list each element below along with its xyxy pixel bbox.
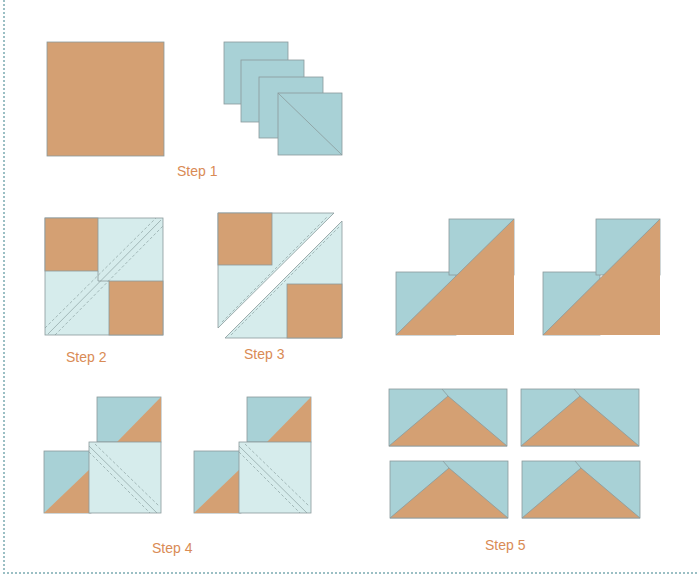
step3-result-right: [543, 219, 660, 335]
step1-tan-square: [47, 42, 164, 156]
step5-goose-4: [522, 461, 640, 518]
quilt-instructions-diagram: .tan { fill: #d4a073; } .blue { fill: #a…: [0, 0, 697, 577]
step1-label: Step 1: [177, 163, 217, 179]
step5-goose-2: [521, 389, 639, 446]
step3-label: Step 3: [244, 346, 284, 362]
step1-blue-squares-stack: [224, 42, 342, 155]
step3-result-left: [396, 219, 514, 335]
step2-label: Step 2: [66, 349, 106, 365]
step4-label: Step 4: [152, 540, 192, 556]
step5-goose-1: [389, 389, 507, 446]
step5-goose-3: [390, 461, 508, 518]
step2-block: [45, 218, 163, 335]
step3-block-cut: [218, 213, 342, 338]
step4-block-right: [194, 397, 311, 513]
step5-label: Step 5: [485, 537, 525, 553]
step4-block-left: [44, 397, 161, 513]
